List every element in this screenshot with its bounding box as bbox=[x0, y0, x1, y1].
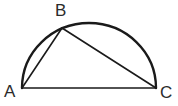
vertex-label-b: B bbox=[55, 2, 66, 19]
semicircle-triangle-diagram bbox=[0, 0, 178, 106]
geometry-figure: A B C bbox=[0, 0, 178, 106]
semicircle-arc bbox=[22, 23, 156, 88]
segment-bc-chord bbox=[62, 28, 156, 88]
vertex-label-a: A bbox=[4, 83, 15, 100]
vertex-label-c: C bbox=[160, 84, 172, 101]
